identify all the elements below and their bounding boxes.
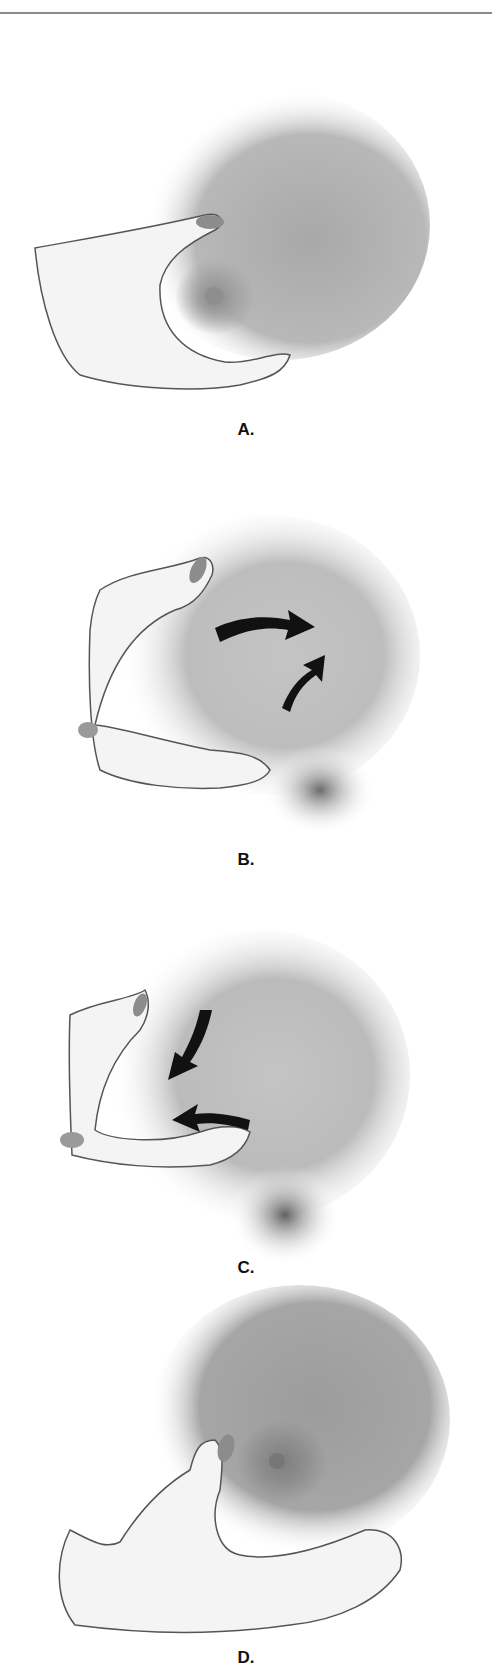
nipple <box>78 722 98 738</box>
panel-label-c: C. <box>0 1258 492 1278</box>
nipple <box>269 1453 285 1469</box>
panel-b: B. <box>0 460 492 870</box>
nipple <box>60 1132 84 1148</box>
fold-shadow <box>265 745 375 835</box>
panel-label-b: B. <box>0 850 492 870</box>
illustration-a <box>0 0 492 460</box>
illustration-c <box>0 870 492 1280</box>
panel-c: C. <box>0 870 492 1280</box>
panel-label-a: A. <box>0 420 492 440</box>
panel-label-d: D. <box>0 1648 492 1668</box>
thumbnail <box>196 215 224 229</box>
illustration-d <box>0 1280 492 1677</box>
panel-d: D. <box>0 1280 492 1677</box>
illustration-b <box>0 460 492 870</box>
fold-shadow <box>230 1165 340 1265</box>
nipple <box>205 287 223 305</box>
panel-a: A. <box>0 0 492 460</box>
